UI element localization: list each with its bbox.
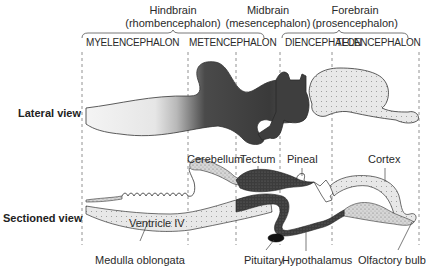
- medulla-oblongata-label: Medulla oblongata: [95, 254, 185, 266]
- cerebellum-label: Cerebellum: [187, 153, 243, 165]
- ventricle-iv-membrane: [122, 168, 195, 196]
- tectum-label: Tectum: [240, 153, 275, 165]
- forebrain-bracket: [282, 30, 408, 38]
- lateral-telencephalon: [309, 68, 418, 123]
- hindbrain-bracket: [82, 30, 264, 38]
- brain-diagram: [0, 0, 428, 273]
- ventricle-iv-label: Ventricle IV: [129, 217, 185, 229]
- pituitary-shape: [268, 234, 284, 242]
- section-hindbrain-roof: [86, 196, 122, 202]
- hypothalamus-label: Hypothalamus: [282, 254, 352, 266]
- pineal-label: Pineal: [287, 153, 318, 165]
- diencephalon-roof: [314, 180, 333, 202]
- lateral-view-label: Lateral view: [18, 107, 81, 119]
- olfactory-bulb-label: Olfactory bulb: [358, 254, 426, 266]
- olfactory-leader: [398, 222, 412, 250]
- pituitary-leader: [266, 240, 274, 250]
- sectioned-view-label: Sectioned view: [3, 212, 82, 224]
- cortex-label: Cortex: [368, 153, 400, 165]
- pituitary-label: Pituitary: [244, 254, 284, 266]
